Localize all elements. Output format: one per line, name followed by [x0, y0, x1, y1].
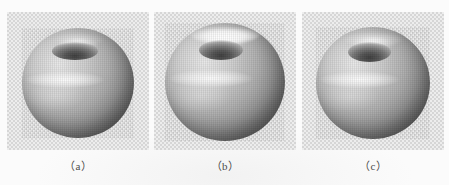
figure-panel-b: [154, 12, 296, 150]
figure-container: （a） （b） （c）: [0, 0, 449, 185]
figure-panel-a: [7, 12, 149, 150]
figure-panel-c: [302, 12, 444, 150]
panel-caption-c: （c）: [302, 157, 444, 173]
rendered-object-b: [165, 23, 285, 141]
top-dimple-c: [348, 42, 391, 62]
panel-caption-b: （b）: [154, 157, 296, 173]
top-dimple-a: [52, 42, 98, 60]
rendered-object-a: [22, 28, 134, 138]
rendered-object-c: [316, 27, 430, 139]
panel-row: [0, 0, 449, 155]
top-dimple-b: [199, 40, 243, 60]
panel-caption-a: （a）: [7, 157, 149, 173]
